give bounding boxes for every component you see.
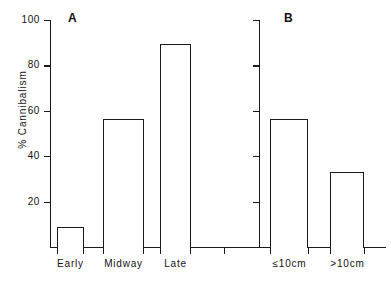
x-tick-a-6 (190, 248, 191, 254)
x-tick-a-1 (57, 248, 58, 254)
y-tick-label-20: 20 (12, 196, 40, 207)
bar-le-10cm (270, 119, 308, 248)
y-tick-label-60: 60 (12, 105, 40, 116)
panel-b-y-tick-20 (253, 202, 259, 203)
panel-a-letter: A (68, 11, 77, 25)
panel-b-y-tick-100 (253, 20, 259, 21)
bar-gt-10cm (330, 172, 364, 248)
x-tick-a-7 (224, 248, 225, 254)
bar-midway (103, 119, 144, 248)
bar-early (57, 227, 84, 248)
x-tick-a-5 (160, 248, 161, 254)
x-tick-b-1 (270, 248, 271, 254)
panel-b-letter: B (284, 11, 293, 25)
panel-b-y-tick-60 (253, 111, 259, 112)
x-tick-a-4 (143, 248, 144, 254)
x-tick-b-3 (330, 248, 331, 254)
y-tick-label-40: 40 (12, 150, 40, 161)
x-label-early: Early (40, 258, 101, 269)
panel-b-y-axis (259, 20, 260, 248)
y-tick-40 (44, 156, 50, 157)
panel-b-y-tick-40 (253, 156, 259, 157)
x-tick-b-4 (364, 248, 365, 254)
bar-late (160, 44, 191, 248)
y-tick-20 (44, 202, 50, 203)
y-tick-80 (44, 65, 50, 66)
panel-b-y-tick-80 (253, 65, 259, 66)
x-tick-a-3 (103, 248, 104, 254)
panel-a-y-axis (50, 20, 51, 248)
y-tick-100 (44, 20, 50, 21)
y-tick-label-100: 100 (12, 14, 40, 25)
x-tick-b-2 (308, 248, 309, 254)
y-tick-60 (44, 111, 50, 112)
x-label-late: Late (145, 258, 206, 269)
x-label-gt-10cm: >10cm (317, 258, 378, 269)
chart-figure: % Cannibalism 100 80 60 40 20 A Early Mi… (0, 0, 391, 285)
y-tick-label-80: 80 (12, 59, 40, 70)
x-tick-a-2 (83, 248, 84, 254)
x-label-le-10cm: ≤10cm (259, 258, 320, 269)
